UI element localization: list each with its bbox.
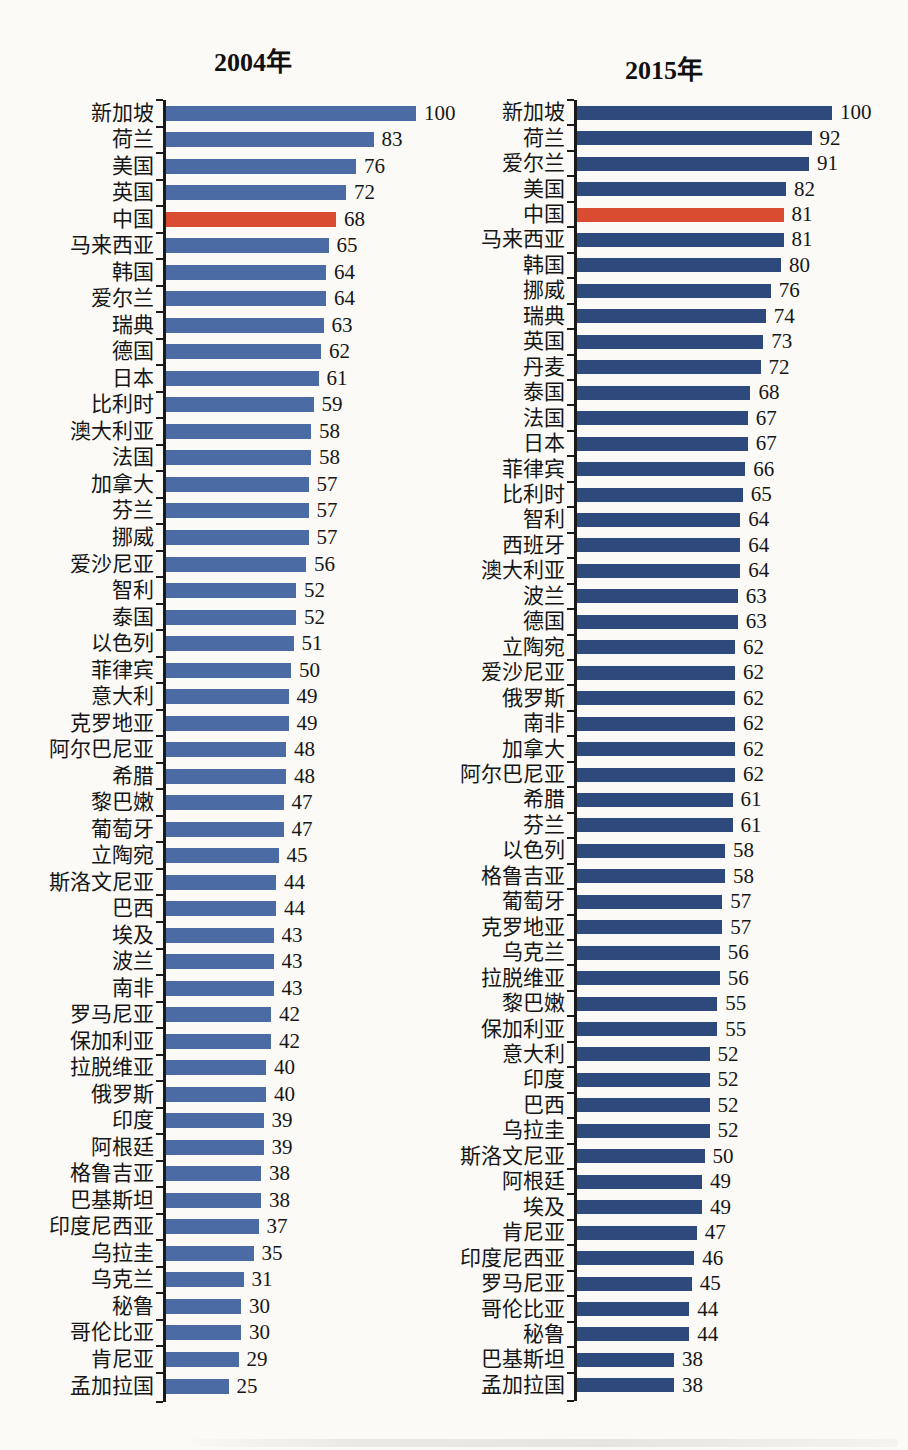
axis-tick [156, 576, 163, 578]
category-label: 斯洛文尼亚 [3, 872, 163, 893]
axis-tick [567, 1321, 574, 1323]
category-label: 爱尔兰 [454, 153, 574, 174]
bar-row: 罗马尼亚45 [454, 1271, 908, 1296]
category-label: 巴基斯坦 [3, 1190, 163, 1211]
category-label: 德国 [3, 341, 163, 362]
value-label: 58 [725, 866, 754, 887]
bar-row: 澳大利亚64 [454, 558, 908, 583]
bar-row: 芬兰57 [3, 498, 454, 525]
bar [166, 424, 311, 439]
bar-row: 英国73 [454, 329, 908, 354]
plot-area: 35 [163, 1240, 454, 1267]
bar [577, 895, 722, 909]
axis-tick [156, 948, 163, 950]
bar-row: 比利时65 [454, 482, 908, 507]
value-label: 37 [259, 1216, 288, 1237]
value-label: 42 [271, 1031, 300, 1052]
category-label: 爱尔兰 [3, 288, 163, 309]
bar-row: 拉脱维亚40 [3, 1055, 454, 1082]
category-label: 格鲁吉亚 [454, 866, 574, 887]
bar-row: 法国67 [454, 405, 908, 430]
value-label: 40 [266, 1084, 295, 1105]
plot-area: 31 [163, 1267, 454, 1294]
value-label: 52 [710, 1044, 739, 1065]
bar-row: 乌拉圭35 [3, 1240, 454, 1267]
category-label: 挪威 [3, 527, 163, 548]
bar-rows-2004: 新加坡100荷兰83美国76英国72中国68马来西亚65韩国64爱尔兰64瑞典6… [3, 100, 454, 1402]
bar [577, 1226, 697, 1240]
category-label: 澳大利亚 [3, 421, 163, 442]
plot-area: 62 [574, 635, 908, 660]
axis-tick [567, 506, 574, 508]
bar-row: 芬兰61 [454, 813, 908, 838]
bar [577, 946, 720, 960]
plot-area: 42 [163, 1002, 454, 1029]
bar-row: 泰国68 [454, 380, 908, 405]
bar [577, 1175, 702, 1189]
bar [166, 557, 306, 572]
plot-area: 82 [574, 176, 908, 201]
bar [577, 1022, 717, 1036]
bar-row: 克罗地亚57 [454, 915, 908, 940]
category-label: 肯尼亚 [3, 1349, 163, 1370]
axis-tick [567, 888, 574, 890]
category-label: 希腊 [3, 766, 163, 787]
category-label: 哥伦比亚 [454, 1299, 574, 1320]
category-label: 埃及 [454, 1197, 574, 1218]
value-label: 58 [725, 840, 754, 861]
bar-row: 斯洛文尼亚44 [3, 869, 454, 896]
axis-tick [156, 550, 163, 552]
plot-area: 42 [163, 1028, 454, 1055]
bar [166, 185, 346, 200]
bar-row: 意大利49 [3, 683, 454, 710]
plot-area: 50 [163, 657, 454, 684]
plot-area: 92 [574, 125, 908, 150]
chart-title-2004: 2004年 [214, 50, 292, 76]
axis-tick [156, 841, 163, 843]
category-label: 印度尼西亚 [454, 1248, 574, 1269]
axis-tick [567, 634, 574, 636]
axis-tick [567, 1219, 574, 1221]
bar-row: 荷兰92 [454, 125, 908, 150]
bar-row: 澳大利亚58 [3, 418, 454, 445]
axis-tick [567, 1244, 574, 1246]
plot-area: 63 [574, 584, 908, 609]
bar [166, 981, 274, 996]
plot-area: 83 [163, 127, 454, 154]
bar [577, 1073, 710, 1087]
plot-area: 61 [163, 365, 454, 392]
plot-area: 30 [163, 1293, 454, 1320]
bar [577, 284, 771, 298]
bar [166, 1219, 259, 1234]
axis-tick [156, 205, 163, 207]
bar-row: 马来西亚65 [3, 233, 454, 260]
axis-tick [156, 788, 163, 790]
axis-tick [567, 252, 574, 254]
bar [166, 1379, 229, 1394]
bar [577, 411, 748, 425]
value-label: 62 [321, 341, 350, 362]
category-label: 巴西 [3, 898, 163, 919]
axis-tick [156, 1239, 163, 1241]
value-label: 30 [241, 1296, 270, 1317]
bar [577, 818, 733, 832]
plot-area: 38 [574, 1373, 908, 1398]
category-label: 克罗地亚 [3, 713, 163, 734]
plot-area: 43 [163, 922, 454, 949]
axis-tick [567, 608, 574, 610]
bar [166, 1140, 264, 1155]
value-label: 67 [748, 408, 777, 429]
bar-row: 立陶宛45 [3, 842, 454, 869]
axis-tick [156, 921, 163, 923]
category-label: 格鲁吉亚 [3, 1163, 163, 1184]
axis-tick [567, 379, 574, 381]
value-label: 68 [750, 382, 779, 403]
bar [166, 238, 329, 253]
value-label: 45 [279, 845, 308, 866]
axis-tick [567, 1168, 574, 1170]
bar-row: 泰国52 [3, 604, 454, 631]
value-label: 59 [314, 394, 343, 415]
category-label: 罗马尼亚 [454, 1273, 574, 1294]
category-label: 孟加拉国 [454, 1375, 574, 1396]
value-label: 56 [720, 968, 749, 989]
